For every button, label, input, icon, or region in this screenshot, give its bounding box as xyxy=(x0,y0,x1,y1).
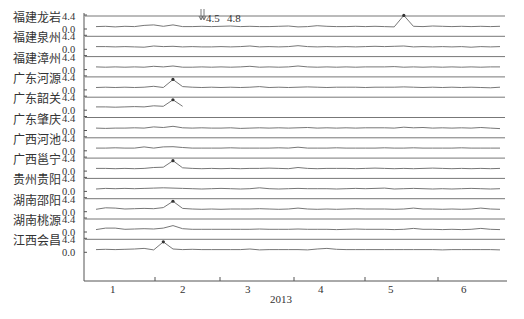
series-line xyxy=(96,188,500,189)
peak-marker xyxy=(171,98,174,101)
series-line xyxy=(96,46,500,48)
series-line xyxy=(96,80,500,88)
x-tick-label: 6 xyxy=(461,284,467,295)
station-label: 湖南邵阳 xyxy=(13,195,61,207)
y-tick-top: 4.4 xyxy=(62,235,75,245)
x-axis-title: 2013 xyxy=(270,294,292,305)
peak-marker xyxy=(171,159,174,162)
y-tick-top: 4.4 xyxy=(62,215,75,225)
annotation-value-1: 4.5 xyxy=(206,13,220,24)
series-line xyxy=(96,226,500,230)
peak-marker xyxy=(171,200,174,203)
station-label: 福建龙岩 xyxy=(13,12,61,24)
x-tick-label: 2 xyxy=(180,284,186,295)
station-label: 贵州贵阳 xyxy=(13,174,61,186)
station-label: 湖南桃源 xyxy=(13,215,61,227)
series-line xyxy=(96,15,500,27)
series-line xyxy=(96,100,183,107)
peak-marker xyxy=(171,78,174,81)
y-tick-top: 4.4 xyxy=(62,114,75,124)
stacked-line-chart xyxy=(0,0,524,319)
station-label: 广西河池 xyxy=(13,134,61,146)
y-tick-top: 4.4 xyxy=(62,195,75,205)
y-tick-top: 4.4 xyxy=(62,134,75,144)
series-line xyxy=(96,242,500,250)
peak-marker xyxy=(162,240,165,243)
y-tick-top: 4.4 xyxy=(62,73,75,83)
y-tick-top: 4.4 xyxy=(62,154,75,164)
station-label: 广东河源 xyxy=(13,73,61,85)
y-tick-top: 4.4 xyxy=(62,93,75,103)
y-tick-top: 4.4 xyxy=(62,32,75,42)
station-label: 广西邕宁 xyxy=(13,154,61,166)
x-tick-label: 3 xyxy=(245,284,251,295)
station-label: 江西会昌 xyxy=(13,235,61,247)
y-tick-bottom: 0.0 xyxy=(62,248,75,258)
x-tick-label: 5 xyxy=(388,284,394,295)
station-label: 福建漳州 xyxy=(13,53,61,65)
series-line xyxy=(96,147,500,148)
y-tick-top: 4.4 xyxy=(62,53,75,63)
station-label: 福建泉州 xyxy=(13,32,61,44)
y-tick-top: 4.4 xyxy=(62,12,75,22)
station-label: 广东韶关 xyxy=(13,93,61,105)
peak-marker xyxy=(402,14,405,17)
y-tick-top: 4.4 xyxy=(62,174,75,184)
station-label: 广东肇庆 xyxy=(13,114,61,126)
series-line xyxy=(96,66,500,67)
series-line xyxy=(96,201,500,209)
x-tick-label: 1 xyxy=(110,284,116,295)
series-line xyxy=(96,161,500,169)
annotation-value-2: 4.8 xyxy=(227,13,241,24)
series-line xyxy=(96,126,500,128)
x-tick-label: 4 xyxy=(318,284,324,295)
